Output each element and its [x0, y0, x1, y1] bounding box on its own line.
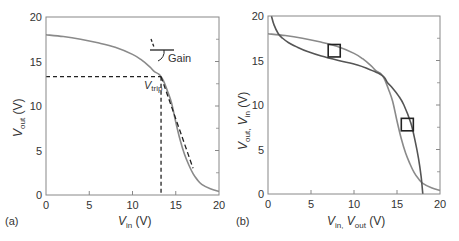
panel-a-y-axis-label: Vout (V) — [11, 99, 27, 137]
gain-annotation: Gain — [168, 52, 191, 64]
y-tick-label: 10 — [252, 99, 264, 111]
gain-angle-arc — [158, 50, 164, 61]
x-tick-label: 0 — [43, 199, 49, 211]
y-tick-label: 10 — [30, 100, 42, 112]
x-tick-label: 5 — [308, 198, 314, 210]
y-tick-label: 5 — [258, 144, 264, 156]
butterfly-curve-1 — [268, 34, 440, 191]
panel-b-label: (b) — [236, 215, 249, 227]
y-tick-label: 5 — [36, 145, 42, 157]
gain-slope-extension — [151, 39, 154, 47]
x-tick-label: 15 — [170, 199, 182, 211]
x-tick-label: 15 — [391, 198, 403, 210]
butterfly-curve-2 — [271, 16, 422, 194]
panel-b-plot-area — [268, 16, 440, 194]
vtrip-annotation: Vtrip — [144, 79, 163, 93]
x-tick-label: 20 — [434, 198, 446, 210]
y-tick-label: 15 — [252, 55, 264, 67]
panel-a-x-axis-label: Vin (V) — [118, 214, 152, 230]
chart-panel-b: 0510152005101520 Vin, Vout (V) Vout, Vin… — [236, 10, 446, 230]
y-tick-label: 20 — [30, 11, 42, 23]
x-tick-label: 5 — [86, 199, 92, 211]
vtrip-sub: trip — [151, 84, 163, 93]
chart-panel-a: 0510152005101520 Gain Vtrip Vin (V) Vout… — [5, 11, 225, 230]
panel-b-frame — [268, 16, 440, 194]
x-tick-label: 20 — [213, 199, 225, 211]
panel-b-ticks: 0510152005101520 — [252, 10, 446, 210]
panel-a-label: (a) — [5, 215, 18, 227]
noise-margin-square-2 — [401, 118, 413, 130]
gain-tangent-line — [161, 77, 193, 169]
y-tick-label: 20 — [252, 10, 264, 22]
y-tick-label: 0 — [258, 188, 264, 200]
x-tick-label: 10 — [126, 199, 138, 211]
x-tick-label: 0 — [265, 198, 271, 210]
x-tick-label: 10 — [348, 198, 360, 210]
y-tick-label: 15 — [30, 56, 42, 68]
panel-a-plot-area — [46, 35, 219, 195]
panel-a-ticks: 0510152005101520 — [30, 11, 225, 211]
noise-margin-square-1 — [328, 44, 340, 56]
panel-b-y-axis-label: Vout, Vin (V) — [236, 92, 252, 150]
figure: 0510152005101520 Gain Vtrip Vin (V) Vout… — [0, 0, 459, 241]
panel-b-x-axis-label: Vin, Vout (V) — [327, 214, 385, 230]
y-tick-label: 0 — [36, 189, 42, 201]
